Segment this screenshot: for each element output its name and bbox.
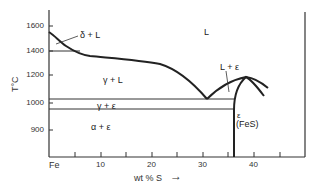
xtick-10: 10 xyxy=(96,161,105,169)
arrow-right-icon: → xyxy=(170,172,182,181)
region-fes: (FeS) xyxy=(236,120,259,129)
xtick-30: 30 xyxy=(198,161,207,169)
phase-diagram xyxy=(0,0,314,185)
liquidus-fe-side xyxy=(49,32,207,99)
region-L-eps: L + ε xyxy=(220,63,239,72)
ytick-1400: 1400 xyxy=(14,47,44,55)
region-alpha-eps: α + ε xyxy=(91,123,110,132)
l-eps-leader xyxy=(226,71,229,92)
region-gamma-L: γ + L xyxy=(103,76,123,85)
x-ticks xyxy=(75,152,280,157)
y-axis-label: T°C xyxy=(10,76,20,92)
xtick-40: 40 xyxy=(249,161,258,169)
x-axis-label: wt % S xyxy=(134,174,162,183)
xtick-fe: Fe xyxy=(49,161,60,169)
ytick-1000: 1000 xyxy=(14,99,44,107)
ytick-900: 900 xyxy=(14,126,44,134)
region-delta-L: δ + L xyxy=(80,31,100,40)
ytick-1600: 1600 xyxy=(14,22,44,30)
region-L: L xyxy=(204,28,209,37)
xtick-20: 20 xyxy=(147,161,156,169)
region-gamma-eps: γ + ε xyxy=(97,102,116,111)
